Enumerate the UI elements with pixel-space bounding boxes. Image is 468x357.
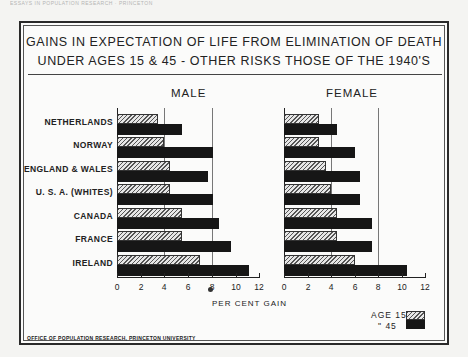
title-divider bbox=[28, 74, 442, 75]
male-x-tick-label: 4 bbox=[154, 282, 174, 292]
male-x-tick bbox=[188, 273, 189, 278]
speck-mark bbox=[208, 287, 213, 292]
female-bar-age45 bbox=[284, 171, 360, 182]
category-label: NORWAY bbox=[73, 140, 113, 150]
female-x-tick bbox=[378, 273, 379, 278]
female-bar-age15 bbox=[284, 208, 337, 218]
male-x-tick bbox=[236, 273, 237, 278]
category-label: FRANCE bbox=[75, 234, 113, 244]
female-bar-age15 bbox=[284, 114, 319, 124]
male-x-tick-label: 6 bbox=[178, 282, 198, 292]
male-bar-age45 bbox=[117, 194, 213, 205]
male-bar-age45 bbox=[117, 171, 208, 182]
female-bar-age45 bbox=[284, 147, 355, 158]
female-bar-age45 bbox=[284, 241, 372, 252]
male-bar-age45 bbox=[117, 147, 213, 158]
female-bar-age15 bbox=[284, 161, 326, 171]
female-x-tick-label: 6 bbox=[345, 282, 365, 292]
male-bar-age45 bbox=[117, 124, 182, 135]
female-x-tick bbox=[425, 273, 426, 278]
category-label: NETHERLANDS bbox=[44, 117, 113, 127]
female-x-tick bbox=[355, 273, 356, 278]
female-bar-age15 bbox=[284, 137, 319, 147]
male-x-tick bbox=[259, 273, 260, 278]
legend-label-age-15: AGE 15 bbox=[371, 310, 407, 320]
male-x-tick-label: 2 bbox=[131, 282, 151, 292]
male-x-tick-label: 12 bbox=[249, 282, 269, 292]
male-bar-age15 bbox=[117, 231, 182, 241]
male-bar-age45 bbox=[117, 265, 249, 276]
x-axis-label: PER CENT GAIN bbox=[212, 299, 287, 308]
source-footer: OFFICE OF POPULATION RESEARCH, PRINCETON… bbox=[27, 335, 196, 341]
male-x-tick-label: 10 bbox=[226, 282, 246, 292]
male-bar-age15 bbox=[117, 184, 170, 194]
male-bar-age15 bbox=[117, 137, 164, 147]
male-bar-age15 bbox=[117, 255, 200, 265]
legend-swatch-hatched bbox=[406, 311, 425, 320]
female-x-tick-label: 12 bbox=[415, 282, 435, 292]
panel-title-female: FEMALE bbox=[326, 87, 378, 99]
female-x-tick-label: 2 bbox=[298, 282, 318, 292]
female-x-tick-label: 0 bbox=[274, 282, 294, 292]
male-bar-age15 bbox=[117, 114, 158, 124]
female-bar-age45 bbox=[284, 194, 360, 205]
female-grid-line bbox=[378, 108, 379, 277]
category-label: U. S. A. (WHITES) bbox=[36, 187, 113, 197]
female-bar-age15 bbox=[284, 184, 331, 194]
chart-title-line-1: GAINS IN EXPECTATION OF LIFE FROM ELIMIN… bbox=[0, 35, 468, 49]
chart-title-line-2: UNDER AGES 15 & 45 - OTHER RISKS THOSE O… bbox=[0, 54, 468, 68]
female-x-tick-label: 8 bbox=[368, 282, 388, 292]
male-x-tick bbox=[164, 273, 165, 278]
male-x-tick bbox=[117, 273, 118, 278]
category-label: CANADA bbox=[74, 211, 113, 221]
female-bar-age45 bbox=[284, 124, 337, 135]
male-bar-age15 bbox=[117, 161, 170, 171]
female-x-tick bbox=[308, 273, 309, 278]
female-x-tick bbox=[402, 273, 403, 278]
legend-label-age-45: " 45 bbox=[378, 321, 397, 331]
female-bar-age15 bbox=[284, 255, 355, 265]
category-label: IRELAND bbox=[72, 258, 113, 268]
male-x-tick bbox=[212, 273, 213, 278]
female-bar-age15 bbox=[284, 231, 337, 241]
female-x-tick bbox=[284, 273, 285, 278]
page-header-text: ESSAYS IN POPULATION RESEARCH · PRINCETO… bbox=[10, 0, 153, 6]
chart-frame bbox=[19, 21, 449, 345]
category-label: ENGLAND & WALES bbox=[24, 164, 113, 174]
female-x-tick bbox=[331, 273, 332, 278]
male-x-tick bbox=[141, 273, 142, 278]
legend-swatch-solid bbox=[406, 320, 425, 329]
male-bar-age45 bbox=[117, 218, 219, 229]
male-bar-age15 bbox=[117, 208, 182, 218]
female-x-tick-label: 4 bbox=[321, 282, 341, 292]
female-bar-age45 bbox=[284, 265, 407, 276]
male-bar-age45 bbox=[117, 241, 231, 252]
female-bar-age45 bbox=[284, 218, 372, 229]
female-x-tick-label: 10 bbox=[392, 282, 412, 292]
panel-title-male: MALE bbox=[171, 87, 206, 99]
male-x-tick-label: 0 bbox=[107, 282, 127, 292]
